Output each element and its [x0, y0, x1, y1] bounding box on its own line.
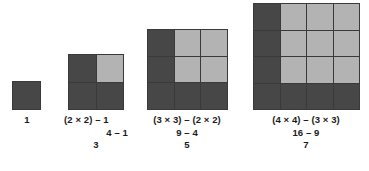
square-grid-4x4: [253, 3, 360, 110]
grid-cell-light: [281, 4, 307, 30]
grid-cell-light: [281, 57, 307, 83]
caption-4: (4 × 4) – (3 × 3) 16 – 9 7: [247, 114, 365, 152]
grid-cell-dark: [254, 84, 280, 110]
grid-cell-dark: [254, 4, 280, 30]
grid-cell-light: [307, 57, 333, 83]
grid-cell-light: [307, 4, 333, 30]
grid-cell-light: [334, 57, 360, 83]
grid-cell-dark: [307, 84, 333, 110]
grid-cell-light: [281, 31, 307, 57]
caption-4-line-2: 16 – 9: [247, 127, 365, 140]
grid-cell-light: [334, 31, 360, 57]
caption-4-line-3: 7: [247, 139, 365, 152]
grid-cell-light: [307, 31, 333, 57]
figure-root: 1 (2 × 2) – 1 4 – 1 3 (3 × 3) – (2 × 2) …: [0, 0, 369, 171]
grid-cell-light: [334, 4, 360, 30]
grid-cell-dark: [334, 84, 360, 110]
figure-group-4: (4 × 4) – (3 × 3) 16 – 9 7: [0, 0, 369, 171]
grid-cell-dark: [254, 31, 280, 57]
grid-cell-dark: [281, 84, 307, 110]
grid-cell-dark: [254, 57, 280, 83]
caption-4-line-1: (4 × 4) – (3 × 3): [247, 114, 365, 127]
